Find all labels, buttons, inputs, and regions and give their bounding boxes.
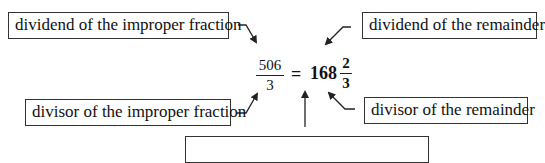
label-divisor-improper-fraction: divisor of the improper fraction bbox=[25, 99, 231, 126]
label-divisor-remainder: divisor of the remainder bbox=[364, 97, 528, 124]
arrow-dividend-remainder bbox=[326, 27, 351, 44]
improper-numerator: 506 bbox=[256, 57, 284, 74]
remainder-denominator: 3 bbox=[340, 75, 352, 92]
equals-sign: = bbox=[291, 64, 301, 85]
label-text: divisor of the improper fraction bbox=[32, 102, 246, 121]
improper-fraction: 506 3 bbox=[256, 57, 284, 94]
label-text: dividend of the improper fraction bbox=[15, 15, 242, 34]
label-dividend-remainder: dividend of the remainder bbox=[362, 12, 537, 39]
arrow-divisor-remainder bbox=[329, 93, 355, 109]
whole-number-part: 168 bbox=[310, 63, 337, 84]
label-text: divisor of the remainder bbox=[371, 100, 535, 119]
fraction-bar bbox=[340, 73, 352, 74]
remainder-numerator: 2 bbox=[340, 55, 352, 72]
fraction-bar bbox=[256, 75, 284, 76]
label-quotient bbox=[185, 136, 429, 163]
improper-denominator: 3 bbox=[256, 77, 284, 94]
remainder-fraction: 2 3 bbox=[340, 55, 352, 92]
label-text: dividend of the remainder bbox=[369, 15, 545, 34]
label-dividend-improper-fraction: dividend of the improper fraction bbox=[8, 12, 229, 39]
